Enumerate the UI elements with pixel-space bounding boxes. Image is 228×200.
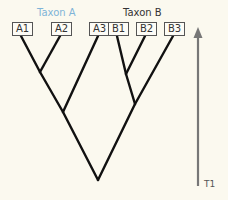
taxon-a-label: Taxon A xyxy=(37,7,76,19)
leaf-b1: B1 xyxy=(108,22,129,36)
branch-a3 xyxy=(63,36,98,112)
leaf-a2: A2 xyxy=(51,22,72,36)
branch-b1b2-stem xyxy=(126,74,135,104)
branch-a1 xyxy=(21,36,40,72)
taxon-b-label: Taxon B xyxy=(123,7,162,19)
phylogenetic-tree-diagram: Taxon A Taxon B A1 A2 A3 B1 B2 B3 T1 xyxy=(0,0,228,200)
branch-taxon-b-stem xyxy=(98,104,135,180)
branch-a1a2-stem xyxy=(40,72,63,112)
time-axis-label: T1 xyxy=(204,179,215,189)
leaf-a1: A1 xyxy=(12,22,33,36)
leaf-b2: B2 xyxy=(136,22,157,36)
branch-b1 xyxy=(117,36,126,74)
time-arrow xyxy=(194,27,203,186)
branch-b2 xyxy=(126,36,145,74)
leaf-a3: A3 xyxy=(89,22,110,36)
branch-taxon-a-stem xyxy=(63,112,98,180)
branch-a2 xyxy=(40,36,60,72)
arrow-up-icon xyxy=(194,27,203,38)
leaf-b3: B3 xyxy=(164,22,185,36)
